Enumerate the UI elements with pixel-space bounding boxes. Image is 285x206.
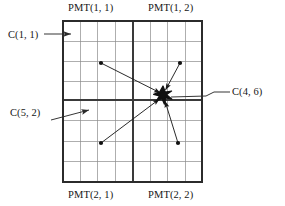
label-cell-mid-left: C(5, 2) bbox=[10, 107, 40, 119]
endpoint-upper-left bbox=[99, 61, 103, 65]
ray-upper-left bbox=[101, 63, 161, 93]
label-pmt-top-right: PMT(1, 2) bbox=[148, 2, 193, 14]
label-pmt-bottom-left: PMT(2, 1) bbox=[68, 189, 113, 201]
leader-c46 bbox=[171, 92, 230, 97]
endpoint-lower-right bbox=[176, 141, 180, 145]
ray-lower-right bbox=[165, 101, 178, 143]
leader-c52 bbox=[51, 110, 89, 120]
endpoint-upper-right bbox=[178, 61, 182, 65]
label-cell-top-left: C(1, 1) bbox=[8, 29, 38, 41]
pmt-grid-figure: PMT(1, 1) PMT(1, 2) PMT(2, 1) PMT(2, 2) … bbox=[0, 0, 285, 206]
pmt-grid-canvas bbox=[0, 0, 285, 206]
label-pmt-bottom-right: PMT(2, 2) bbox=[148, 189, 193, 201]
grid-major-dividers bbox=[63, 21, 202, 182]
label-pmt-top-left: PMT(1, 1) bbox=[68, 2, 113, 14]
label-cell-center-right: C(4, 6) bbox=[232, 86, 262, 98]
photon-rays bbox=[101, 63, 180, 143]
endpoint-lower-left bbox=[99, 141, 103, 145]
photon-endpoints bbox=[99, 61, 182, 145]
event-burst-icon bbox=[154, 86, 172, 104]
